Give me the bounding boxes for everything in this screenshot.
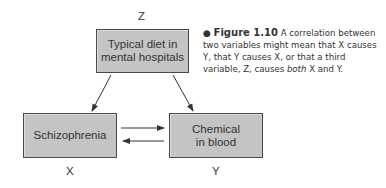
node-y-text-line1: Chemical <box>192 123 240 136</box>
figure-caption: ● Figure 1.10 A correlation between two … <box>203 27 383 75</box>
node-z-box: Typical diet in mental hospitals <box>96 29 189 73</box>
caption-text-part2: X and Y. <box>306 64 343 74</box>
bullet-icon: ● <box>203 28 211 38</box>
arrow-z-to-y <box>173 75 193 111</box>
node-x-text: Schizophrenia <box>34 129 107 142</box>
figure-label: Figure 1.10 <box>214 27 278 38</box>
node-z-label: Z <box>138 10 145 22</box>
node-y-label: Y <box>212 165 220 177</box>
node-y-text-line2: in blood <box>192 136 240 149</box>
caption-emphasis: both <box>287 64 307 74</box>
node-x-box: Schizophrenia <box>23 113 117 158</box>
node-z-text-line2: mental hospitals <box>101 51 184 64</box>
arrow-z-to-x <box>92 75 111 111</box>
node-z-text-line1: Typical diet in <box>101 38 184 51</box>
node-y-box: Chemical in blood <box>169 113 263 158</box>
node-x-label: X <box>66 165 74 177</box>
